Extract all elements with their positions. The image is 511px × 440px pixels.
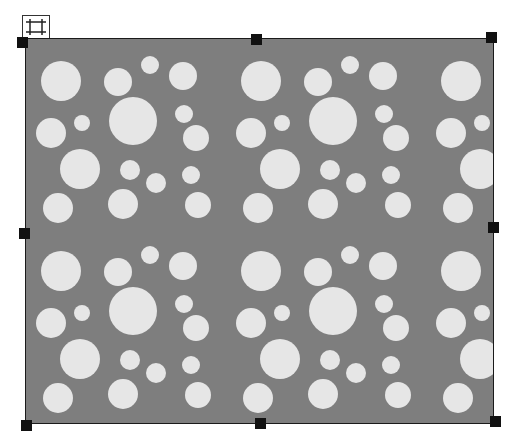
move-frame-icon[interactable] [22, 15, 50, 39]
resize-handle-bottom-left[interactable] [21, 420, 32, 431]
resize-handle-middle-left[interactable] [19, 228, 30, 239]
polka-dot-pattern [26, 39, 494, 424]
resize-handle-top-center[interactable] [251, 34, 262, 45]
resize-handle-top-right[interactable] [486, 32, 497, 43]
resize-handle-top-left[interactable] [17, 37, 28, 48]
image-frame[interactable] [25, 38, 494, 424]
resize-handle-bottom-center[interactable] [255, 418, 266, 429]
resize-handle-middle-right[interactable] [488, 222, 499, 233]
resize-handle-bottom-right[interactable] [490, 416, 501, 427]
